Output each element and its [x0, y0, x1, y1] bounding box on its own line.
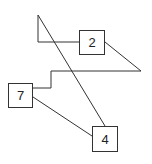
node-4-label: 4 [101, 132, 108, 147]
node-2: 2 [79, 30, 105, 55]
node-7-label: 7 [17, 88, 24, 103]
connector-lines [0, 0, 152, 164]
node-2-label: 2 [88, 35, 95, 50]
node-4: 4 [92, 126, 118, 152]
node-7: 7 [8, 83, 33, 108]
connector-7-to-4 [33, 97, 92, 136]
connector-start-to-2 [38, 15, 79, 42]
